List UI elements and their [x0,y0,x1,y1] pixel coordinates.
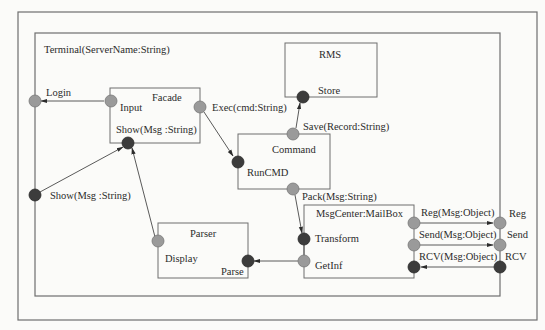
terminal-show-port[interactable] [29,189,41,201]
facade-input-port[interactable] [105,95,117,107]
command-box[interactable] [238,134,330,189]
terminal-show-label: Show(Msg :String) [50,190,131,202]
msgcenter-reg-port[interactable] [408,217,420,229]
command-title: Command [272,144,316,155]
rms-title: RMS [319,49,341,60]
terminal-send-label: Send [507,229,529,240]
terminal-reg-label: Reg [509,208,527,219]
command-runcmd-label: RunCMD [247,167,289,178]
msgcenter-rcv-port[interactable] [408,261,420,273]
command-pack-label: Pack(Msg:String) [302,191,377,203]
facade-input-label: Input [120,102,142,113]
msgcenter-transform-label: Transform [315,233,359,244]
msgcenter-send-port[interactable] [408,239,420,251]
msgcenter-title: MsgCenter:MailBox [316,208,404,219]
msgcenter-getinf-label: GetInf [315,260,343,271]
msgcenter-reg-label: Reg(Msg:Object) [421,207,495,219]
terminal-reg-port[interactable] [494,217,506,229]
wire-display-facade [132,148,155,237]
terminal-label: Terminal(ServerName:String) [44,44,170,56]
rms-store-port[interactable] [297,91,309,103]
terminal-rcv-label: RCV [505,251,527,262]
wire-save-store [296,103,300,128]
terminal-send-port[interactable] [494,239,506,251]
parser-display-label: Display [165,253,198,264]
parser-display-port[interactable] [152,235,164,247]
parser-title: Parser [190,228,217,239]
facade-show-label: Show(Msg :String) [116,124,197,136]
facade-exec-label: Exec(cmd:String) [212,102,287,114]
msgcenter-getinf-port[interactable] [298,255,310,267]
msgcenter-rcv-label: RCV(Msg:Object) [419,251,498,263]
component-diagram: Terminal(ServerName:String) Facade Input… [0,0,545,330]
rms-store-label: Store [318,85,341,96]
command-runcmd-port[interactable] [232,156,244,168]
parser-parse-label: Parse [221,266,244,277]
msgcenter-send-label: Send(Msg:Object) [419,229,497,241]
wire-exec-runcmd [204,112,233,156]
command-save-port[interactable] [287,128,299,140]
terminal-rcv-port[interactable] [494,261,506,273]
wire-show-facade [40,147,123,192]
wire-pack-transform [295,195,302,233]
facade-exec-port[interactable] [194,101,206,113]
facade-title: Facade [152,92,182,103]
msgcenter-transform-port[interactable] [298,233,310,245]
parser-parse-port[interactable] [242,255,254,267]
terminal-login-port[interactable] [29,95,41,107]
facade-show-port[interactable] [122,137,134,149]
terminal-login-label: Login [46,87,72,98]
command-pack-port[interactable] [287,183,299,195]
command-save-label: Save(Record:String) [303,121,390,133]
